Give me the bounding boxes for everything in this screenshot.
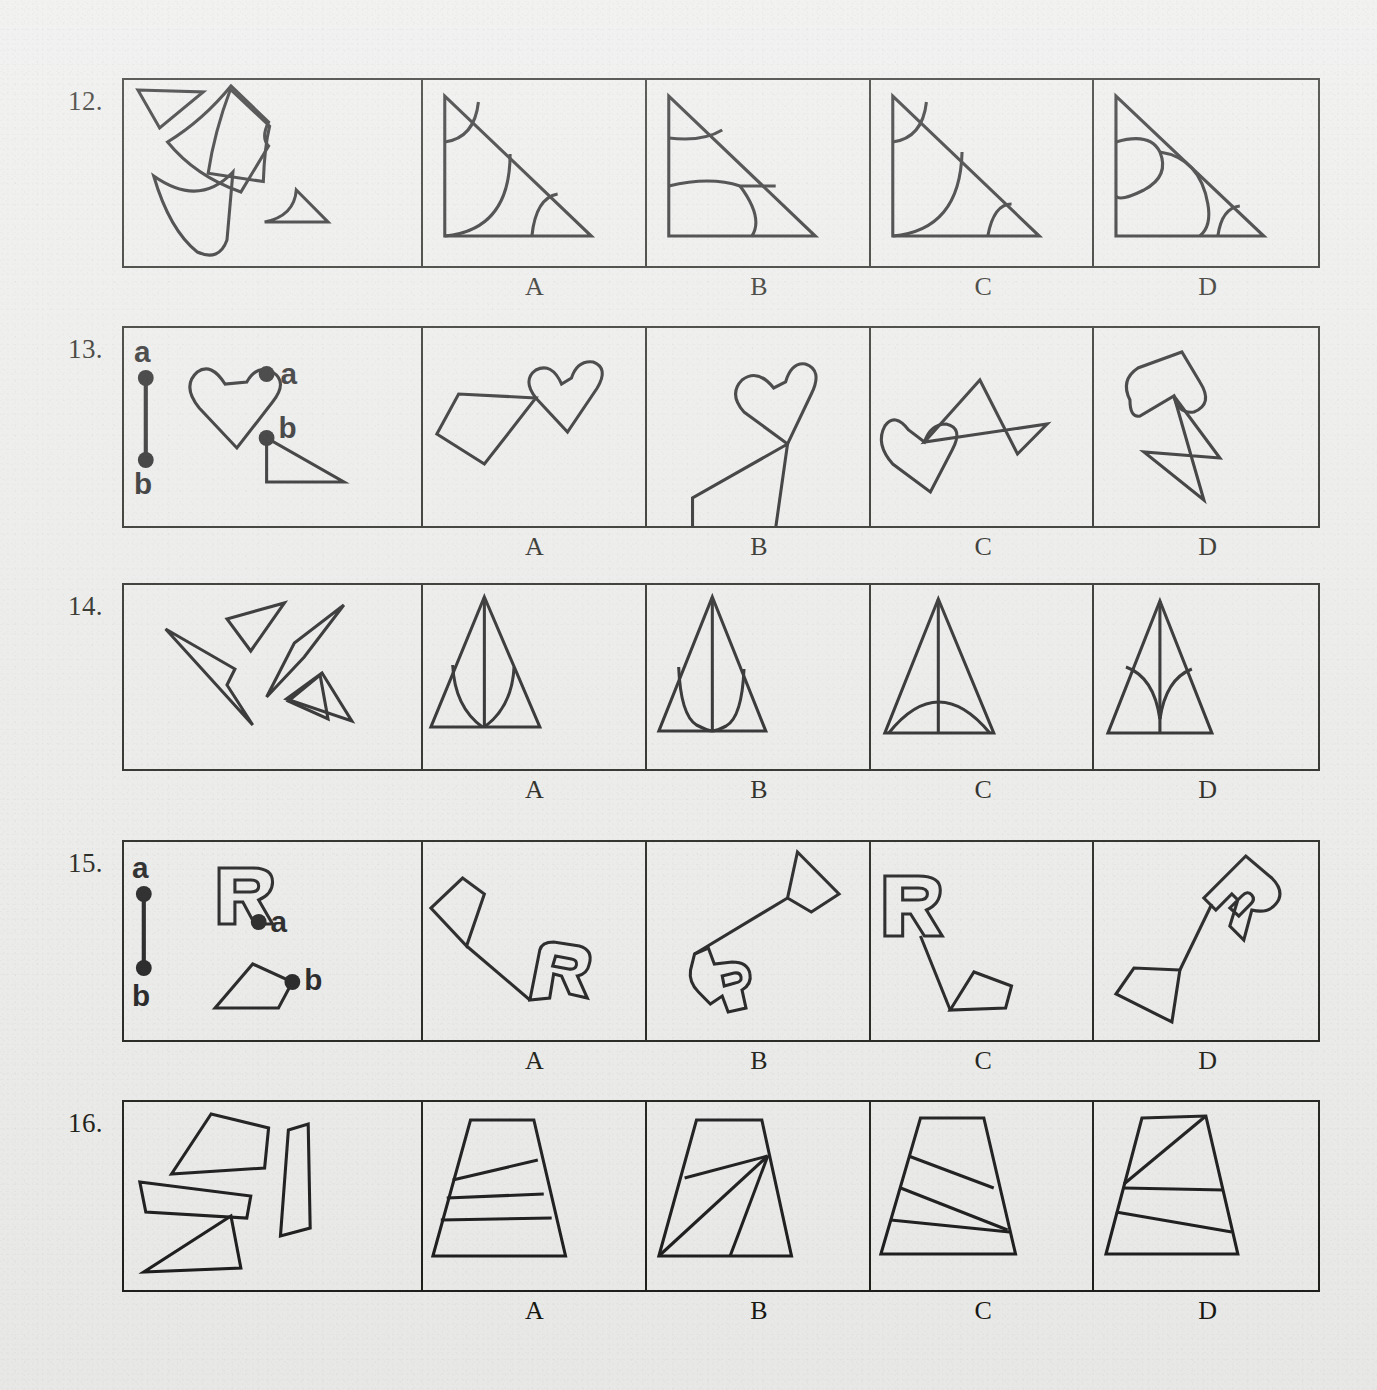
row-16-label-a: A [422, 1296, 646, 1330]
row-15-option-d[interactable] [1094, 842, 1318, 1040]
row-13-option-labels: A B C D [122, 532, 1320, 566]
pentagon-label-b: b [304, 963, 322, 996]
heart-point-a-dot [259, 366, 275, 382]
point-b-dot [138, 452, 154, 468]
row-14-option-d[interactable] [1094, 585, 1318, 769]
row-12-label-b: B [647, 272, 871, 306]
row-15-option-a[interactable] [423, 842, 647, 1040]
row-15-grid: a b a b [122, 840, 1320, 1042]
row-13-option-d[interactable] [1094, 328, 1318, 526]
row-15-option-c[interactable] [871, 842, 1095, 1040]
row-13-label-a: A [422, 532, 646, 566]
row-15-label-a: A [422, 1046, 646, 1080]
row-15-label-b: B [647, 1046, 871, 1080]
point-label-a-top: a [134, 335, 151, 368]
row-12-grid [122, 78, 1320, 268]
pentagon-point-b-dot [284, 974, 300, 990]
row-12-option-d[interactable] [1094, 80, 1318, 266]
row-13-option-b[interactable] [647, 328, 871, 526]
point-label-b-bottom: b [132, 979, 150, 1012]
letter-r-outline [1204, 856, 1280, 940]
row-14-option-b[interactable] [647, 585, 871, 769]
row-15-label-d: D [1096, 1046, 1320, 1080]
label-spacer [122, 1296, 422, 1330]
letter-r-outline [219, 868, 272, 924]
row-14-prompt-cell [124, 585, 423, 769]
row-13-label-d: D [1096, 532, 1320, 566]
row-13-label-b: B [647, 532, 871, 566]
row-number-15: 15. [68, 848, 103, 879]
row-number-16: 16. [68, 1108, 103, 1139]
row-number-12: 12. [68, 86, 103, 117]
row-12-prompt-cell [124, 80, 423, 266]
row-16-option-labels: A B C D [122, 1296, 1320, 1330]
row-number-13: 13. [68, 334, 103, 365]
label-spacer [122, 1046, 422, 1080]
row-14-label-a: A [422, 775, 646, 809]
row-16-option-a[interactable] [423, 1102, 647, 1290]
row-12-label-c: C [871, 272, 1095, 306]
row-13-grid: a b a b [122, 326, 1320, 528]
row-14-grid [122, 583, 1320, 771]
row-13-label-c: C [871, 532, 1095, 566]
row-14-option-a[interactable] [423, 585, 647, 769]
row-15-prompt-cell: a b a b [124, 842, 423, 1040]
point-label-a-top: a [132, 851, 149, 884]
letter-r-outline [530, 942, 590, 1000]
row-13-option-a[interactable] [423, 328, 647, 526]
point-label-b-bottom: b [134, 467, 152, 500]
row-14-option-labels: A B C D [122, 775, 1320, 809]
row-16-label-b: B [647, 1296, 871, 1330]
row-16-grid [122, 1100, 1320, 1292]
point-b-dot [136, 960, 152, 976]
label-spacer [122, 775, 422, 809]
row-14-label-c: C [871, 775, 1095, 809]
row-15-option-b[interactable] [647, 842, 871, 1040]
row-12-label-d: D [1096, 272, 1320, 306]
row-14-option-c[interactable] [871, 585, 1095, 769]
row-number-14: 14. [68, 591, 103, 622]
row-16-label-d: D [1096, 1296, 1320, 1330]
row-13-prompt-cell: a b a b [124, 328, 423, 526]
r-label-a: a [271, 905, 288, 938]
row-12-option-c[interactable] [871, 80, 1095, 266]
row-12-option-a[interactable] [423, 80, 647, 266]
letter-r-outline [884, 876, 941, 936]
row-12-label-a: A [422, 272, 646, 306]
heart-label-a: a [280, 357, 297, 390]
worksheet: 12. [0, 0, 1377, 1390]
row-16-option-b[interactable] [647, 1102, 871, 1290]
label-spacer [122, 272, 422, 306]
letter-r-outline [690, 948, 750, 1012]
row-16-prompt-cell [124, 1102, 423, 1290]
row-13-option-c[interactable] [871, 328, 1095, 526]
row-15-label-c: C [871, 1046, 1095, 1080]
r-point-a-dot [251, 914, 267, 930]
row-16-option-c[interactable] [871, 1102, 1095, 1290]
row-12-option-b[interactable] [647, 80, 871, 266]
row-12-option-labels: A B C D [122, 272, 1320, 306]
triangle-label-b: b [278, 411, 296, 444]
row-14-label-d: D [1096, 775, 1320, 809]
row-16-option-d[interactable] [1094, 1102, 1318, 1290]
row-16-label-c: C [871, 1296, 1095, 1330]
row-14-label-b: B [647, 775, 871, 809]
row-15-option-labels: A B C D [122, 1046, 1320, 1080]
label-spacer [122, 532, 422, 566]
